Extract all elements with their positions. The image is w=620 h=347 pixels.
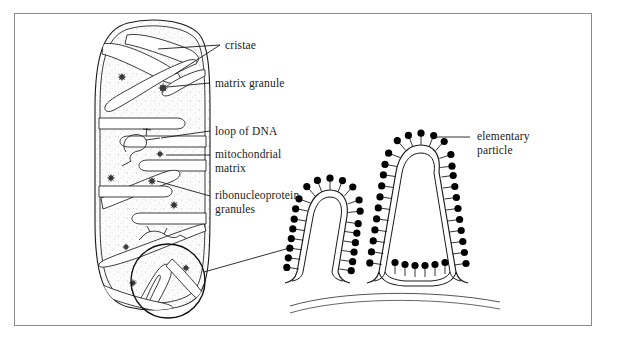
- elementary-particle: [391, 259, 398, 266]
- matrix-granule: [158, 83, 168, 93]
- elementary-particle: [303, 183, 310, 190]
- ribonucleoprotein-granule: [170, 201, 178, 209]
- elementary-particle: [458, 227, 465, 234]
- elementary-particle: [417, 130, 424, 137]
- elementary-particle: [451, 183, 458, 190]
- elementary-particle: [349, 183, 356, 190]
- elementary-particle: [348, 267, 355, 274]
- elementary-particle: [326, 175, 333, 182]
- elementary-particle-group-base: [391, 259, 448, 269]
- elementary-particle: [448, 163, 455, 170]
- label-matrix-granule: matrix granule: [215, 77, 284, 91]
- elementary-particle: [447, 151, 454, 158]
- elementary-particle: [352, 239, 359, 246]
- elementary-particle: [356, 196, 363, 203]
- elementary-particle: [366, 259, 373, 266]
- mitochondrion-diagram: [0, 0, 620, 347]
- elementary-particle: [353, 230, 360, 237]
- leader-magnifier: [204, 247, 293, 272]
- elementary-particle: [441, 138, 448, 145]
- crista: [132, 213, 206, 224]
- elementary-particle: [314, 177, 321, 184]
- elementary-particle: [286, 245, 293, 252]
- elementary-particle: [378, 182, 385, 189]
- ribonucleoprotein-granule: [148, 177, 156, 185]
- elementary-particle: [350, 249, 357, 256]
- label-loop-of-dna: loop of DNA: [215, 125, 277, 139]
- label-mitochondrial-matrix: mitochondrial matrix: [215, 148, 281, 175]
- elementary-particle: [291, 216, 298, 223]
- elementary-particle: [339, 177, 346, 184]
- elementary-particle-group-right: [366, 130, 469, 268]
- elementary-particle: [380, 171, 387, 178]
- crista: [99, 118, 185, 129]
- matrix-granule: [118, 73, 126, 81]
- elementary-particle: [459, 238, 466, 245]
- elementary-particle: [368, 248, 375, 255]
- elementary-particle: [405, 132, 412, 139]
- elementary-particle: [375, 204, 382, 211]
- label-cristae: cristae: [225, 39, 256, 53]
- elementary-particle: [411, 262, 418, 269]
- elementary-particle: [376, 193, 383, 200]
- elementary-particle: [421, 262, 428, 269]
- elementary-particle: [349, 258, 356, 265]
- elementary-particle: [401, 261, 408, 268]
- elementary-particle: [462, 260, 469, 267]
- elementary-particle: [454, 205, 461, 212]
- elementary-particle: [355, 220, 362, 227]
- elementary-particle: [357, 208, 364, 215]
- elementary-particle: [289, 225, 296, 232]
- elementary-particle: [370, 237, 377, 244]
- elementary-particle: [373, 215, 380, 222]
- cristae-detail: [283, 130, 500, 313]
- elementary-particle: [371, 226, 378, 233]
- elementary-particle: [461, 249, 468, 256]
- elementary-particle: [394, 137, 401, 144]
- label-elementary-particle: elementary particle: [477, 130, 530, 157]
- crista: [99, 186, 172, 197]
- ribonucleoprotein-granule: [107, 174, 115, 182]
- elementary-particle: [288, 235, 295, 242]
- elementary-particle: [385, 150, 392, 157]
- crista-base-membrane: [379, 272, 456, 286]
- elementary-particle: [431, 261, 438, 268]
- elementary-particle: [381, 161, 388, 168]
- elementary-particle: [441, 259, 448, 266]
- elementary-particle: [450, 172, 457, 179]
- mitochondrion-overview: [95, 20, 210, 318]
- elementary-particle: [456, 216, 463, 223]
- label-ribonucleoprotein-granules: ribonucleoprotein granules: [215, 189, 299, 216]
- figure-page: cristae matrix granule loop of DNA mitoc…: [0, 0, 620, 347]
- elementary-particle: [283, 264, 290, 271]
- elementary-particle: [430, 132, 437, 139]
- elementary-particle: [453, 194, 460, 201]
- crista: [139, 160, 206, 171]
- elementary-particle: [285, 254, 292, 261]
- outer-membrane-detail: [290, 293, 500, 313]
